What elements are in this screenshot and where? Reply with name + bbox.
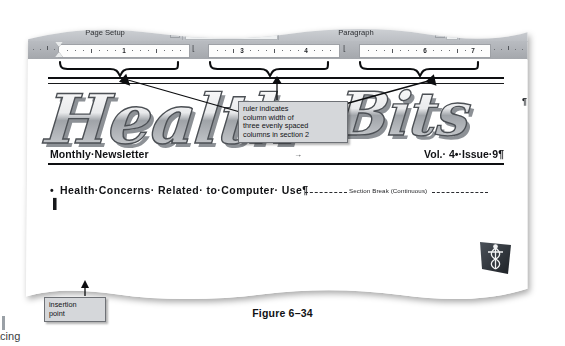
masthead-top-rule-2 [48, 83, 504, 84]
headline-bullet-marker: • [50, 184, 54, 196]
ruler-number-1: 1 [122, 46, 126, 56]
i-beam-pointer [90, 109, 99, 125]
ruler-number-4: 4 [304, 46, 308, 56]
tab-character-marker: → [294, 150, 302, 159]
ribbon-group-page-background[interactable]: Page Background [185, 26, 276, 39]
section-break-dots-left [305, 192, 347, 194]
ruler-callout-line-4: columns in section 2 [243, 131, 343, 140]
newsletter-volume-issue-text[interactable]: Vol.· 4•·Issue·9¶ [424, 148, 504, 160]
horizontal-ruler[interactable]: 1 ⌊ 3 [22, 41, 530, 60]
svg-text:Bits: Bits [337, 83, 477, 153]
ribbon-group-arrange[interactable]: Arrange [462, 26, 528, 39]
ruler-number-6: 6 [423, 46, 427, 56]
figure-caption: Figure 6–34 [0, 307, 565, 319]
ruler-number-7: 7 [471, 46, 475, 56]
document-page[interactable]: Health Health Bits Bits ¶ [22, 59, 530, 302]
page-setup-dialog-launcher-icon[interactable]: ◢ [170, 28, 180, 38]
headline-text[interactable]: Health·Concerns· Related· to·Computer· U… [60, 184, 309, 196]
page-bleed-text: acing [0, 330, 20, 342]
ribbon-group-paragraph[interactable]: Paragraph [280, 26, 432, 39]
section-break-label: Section Break (Continuous) [349, 187, 427, 194]
section-break-dots-right [432, 192, 488, 194]
ribbon-group-page-setup[interactable]: Page Setup [46, 26, 164, 39]
tab-stop-marker: ⌊ [343, 45, 346, 53]
ribbon-divider [182, 25, 183, 40]
ruler-column-segment-1[interactable]: 1 [58, 44, 190, 58]
ribbon-group-strip: Page Setup ◢ Page Background Paragraph ◢… [22, 24, 530, 42]
figure-stage: Page Setup ◢ Page Background Paragraph ◢… [0, 0, 565, 346]
svg-text:Bits: Bits [333, 79, 473, 149]
newsletter-frequency-text[interactable]: Monthly·Newsletter [50, 148, 149, 160]
tab-stop-marker: ⌊ [192, 45, 195, 53]
ribbon-divider [278, 25, 279, 40]
ribbon-divider [459, 25, 460, 40]
paragraph-dialog-launcher-icon[interactable]: ◢ [435, 28, 445, 38]
ruler-column-segment-3[interactable]: 6 7 [359, 44, 491, 58]
masthead-top-rule [48, 77, 504, 81]
page-margin-bar [2, 316, 5, 330]
ruler-number-3: 3 [240, 46, 244, 56]
ruler-callout-box: ruler indicates column width of three ev… [238, 101, 348, 143]
left-indent-marker[interactable] [55, 52, 63, 57]
ruler-column-segment-2[interactable]: 3 4 [208, 44, 340, 58]
caduceus-medical-logo-icon[interactable] [478, 239, 518, 277]
insertion-point-caret: ▌ [53, 198, 60, 209]
logo-paragraph-mark: ¶ [522, 96, 527, 106]
word-screenshot: Page Setup ◢ Page Background Paragraph ◢… [22, 24, 530, 302]
ribbon-spacer [446, 26, 458, 40]
first-line-indent-marker[interactable] [55, 42, 63, 47]
masthead-bottom-rule [48, 163, 504, 167]
